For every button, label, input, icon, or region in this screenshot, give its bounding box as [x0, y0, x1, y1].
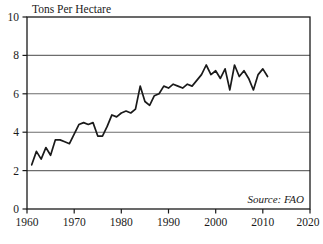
y-tick-label-8: 8 — [13, 49, 19, 61]
figure-container: 0 2 4 6 8 10 1960 1970 1980 1990 2000 20… — [0, 0, 323, 244]
x-tick-label-1960: 1960 — [16, 216, 39, 228]
y-tick-label-0: 0 — [13, 203, 19, 215]
yield-line-chart: 0 2 4 6 8 10 1960 1970 1980 1990 2000 20… — [0, 0, 323, 244]
source-annotation: Source: FAO — [247, 193, 304, 205]
y-axis-ticks — [23, 17, 28, 209]
x-tick-label-1980: 1980 — [110, 216, 133, 228]
plot-background — [27, 17, 310, 209]
x-axis-ticks — [27, 209, 310, 214]
x-tick-label-2020: 2020 — [297, 216, 320, 228]
y-tick-label-10: 10 — [8, 11, 20, 23]
x-tick-label-2000: 2000 — [204, 216, 227, 228]
y-tick-label-4: 4 — [13, 126, 19, 138]
x-tick-label-1990: 1990 — [157, 216, 180, 228]
x-tick-label-1970: 1970 — [63, 216, 86, 228]
y-axis-title: Tons Per Hectare — [32, 3, 111, 15]
y-tick-label-6: 6 — [13, 88, 19, 100]
y-tick-label-2: 2 — [13, 165, 19, 177]
x-tick-label-2010: 2010 — [251, 216, 274, 228]
